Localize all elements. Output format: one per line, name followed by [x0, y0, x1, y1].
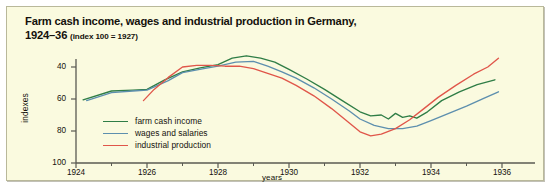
- chart-canvas: [7, 7, 545, 182]
- x-axis-tick-label: 1930: [269, 168, 309, 177]
- x-axis-tick-label: 1932: [340, 168, 380, 177]
- y-axis-tick-label: 60: [40, 94, 66, 103]
- legend-item-label: farm cash income: [135, 116, 202, 126]
- legend-color-swatch: [103, 133, 128, 134]
- legend-color-swatch: [103, 121, 128, 122]
- legend-item[interactable]: industrial production: [103, 139, 211, 151]
- y-axis-tick-label: 40: [40, 62, 66, 71]
- chart-legend: farm cash incomewages and salariesindust…: [103, 115, 211, 151]
- x-axis-tick-label: 1924: [56, 168, 96, 177]
- legend-item[interactable]: wages and salaries: [103, 127, 211, 139]
- y-axis-tick-label: 80: [40, 126, 66, 135]
- figure-panel: Farm cash income, wages and industrial p…: [6, 6, 544, 181]
- plot-area: [7, 7, 545, 182]
- legend-item-label: wages and salaries: [135, 128, 208, 138]
- y-axis-tick-label: 100: [40, 158, 66, 167]
- legend-color-swatch: [103, 145, 128, 146]
- x-axis-tick-label: 1926: [127, 168, 167, 177]
- legend-item-label: industrial production: [135, 140, 211, 150]
- series-line: [83, 56, 495, 119]
- x-axis-tick-label: 1936: [482, 168, 522, 177]
- x-axis-tick-label: 1934: [411, 168, 451, 177]
- y-axis-label: indexes: [20, 78, 30, 138]
- x-axis-tick-label: 1928: [198, 168, 238, 177]
- legend-item[interactable]: farm cash income: [103, 115, 211, 127]
